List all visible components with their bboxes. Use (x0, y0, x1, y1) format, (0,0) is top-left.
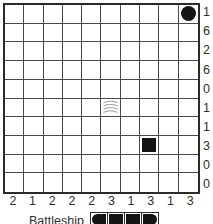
grid-cell-r8c9[interactable] (159, 136, 178, 155)
grid-cell-r5c1[interactable] (5, 80, 24, 99)
grid-cell-r2c10[interactable] (179, 24, 198, 43)
grid-cell-r2c5[interactable] (82, 24, 101, 43)
grid-cell-r4c9[interactable] (159, 61, 178, 80)
grid-cell-r2c9[interactable] (159, 24, 178, 43)
grid-cell-r4c7[interactable] (121, 61, 140, 80)
grid-cell-r3c2[interactable] (24, 42, 43, 61)
grid-cell-r4c2[interactable] (24, 61, 43, 80)
grid-cell-r3c5[interactable] (82, 42, 101, 61)
grid-cell-r6c9[interactable] (159, 99, 178, 118)
grid-cell-r1c8[interactable] (140, 5, 159, 24)
grid-cell-r7c5[interactable] (82, 117, 101, 136)
grid-cell-r8c10[interactable] (179, 136, 198, 155)
grid-cell-r1c9[interactable] (159, 5, 178, 24)
grid-cell-r4c1[interactable] (5, 61, 24, 80)
grid-cell-r9c7[interactable] (121, 155, 140, 174)
grid-cell-r9c10[interactable] (179, 155, 198, 174)
grid-cell-r9c3[interactable] (44, 155, 63, 174)
grid-cell-r6c2[interactable] (24, 99, 43, 118)
grid-cell-r7c4[interactable] (63, 117, 82, 136)
grid-cell-r1c4[interactable] (63, 5, 82, 24)
grid-cell-r2c2[interactable] (24, 24, 43, 43)
grid-cell-r10c8[interactable] (140, 173, 159, 192)
grid-cell-r10c3[interactable] (44, 173, 63, 192)
grid-cell-r9c1[interactable] (5, 155, 24, 174)
grid-cell-r8c4[interactable] (63, 136, 82, 155)
grid-cell-r10c1[interactable] (5, 173, 24, 192)
grid-cell-r7c9[interactable] (159, 117, 178, 136)
grid-cell-r10c7[interactable] (121, 173, 140, 192)
grid-cell-r5c8[interactable] (140, 80, 159, 99)
grid-cell-r1c5[interactable] (82, 5, 101, 24)
grid-cell-r8c1[interactable] (5, 136, 24, 155)
grid-cell-r4c10[interactable] (179, 61, 198, 80)
grid-cell-r3c1[interactable] (5, 42, 24, 61)
grid-cell-r2c6[interactable] (101, 24, 120, 43)
grid-cell-r5c7[interactable] (121, 80, 140, 99)
grid-cell-r6c8[interactable] (140, 99, 159, 118)
grid-cell-r9c4[interactable] (63, 155, 82, 174)
grid-cell-r10c9[interactable] (159, 173, 178, 192)
grid-cell-r1c2[interactable] (24, 5, 43, 24)
grid-cell-r9c6[interactable] (101, 155, 120, 174)
grid-cell-r1c6[interactable] (101, 5, 120, 24)
grid-cell-r8c5[interactable] (82, 136, 101, 155)
grid-cell-r4c6[interactable] (101, 61, 120, 80)
grid-cell-r6c10[interactable] (179, 99, 198, 118)
grid-cell-r6c6[interactable] (101, 99, 120, 118)
grid-cell-r9c8[interactable] (140, 155, 159, 174)
grid-cell-r6c7[interactable] (121, 99, 140, 118)
grid-cell-r5c6[interactable] (101, 80, 120, 99)
grid-cell-r2c1[interactable] (5, 24, 24, 43)
grid-cell-r4c5[interactable] (82, 61, 101, 80)
grid-cell-r7c6[interactable] (101, 117, 120, 136)
grid-cell-r6c3[interactable] (44, 99, 63, 118)
grid-cell-r4c4[interactable] (63, 61, 82, 80)
grid-cell-r10c5[interactable] (82, 173, 101, 192)
grid-cell-r10c6[interactable] (101, 173, 120, 192)
grid-cell-r8c8[interactable] (140, 136, 159, 155)
grid-cell-r2c3[interactable] (44, 24, 63, 43)
grid-cell-r3c9[interactable] (159, 42, 178, 61)
grid-cell-r10c10[interactable] (179, 173, 198, 192)
grid-cell-r1c1[interactable] (5, 5, 24, 24)
grid-cell-r2c7[interactable] (121, 24, 140, 43)
grid-cell-r7c8[interactable] (140, 117, 159, 136)
grid-cell-r7c10[interactable] (179, 117, 198, 136)
grid-cell-r8c2[interactable] (24, 136, 43, 155)
grid-cell-r8c7[interactable] (121, 136, 140, 155)
grid-cell-r9c2[interactable] (24, 155, 43, 174)
grid-cell-r5c3[interactable] (44, 80, 63, 99)
grid-cell-r3c4[interactable] (63, 42, 82, 61)
grid-cell-r5c5[interactable] (82, 80, 101, 99)
grid-cell-r2c4[interactable] (63, 24, 82, 43)
grid-cell-r6c5[interactable] (82, 99, 101, 118)
grid-cell-r5c10[interactable] (179, 80, 198, 99)
grid-cell-r10c2[interactable] (24, 173, 43, 192)
grid-cell-r7c3[interactable] (44, 117, 63, 136)
grid-cell-r3c3[interactable] (44, 42, 63, 61)
grid-cell-r8c6[interactable] (101, 136, 120, 155)
grid-cell-r10c4[interactable] (63, 173, 82, 192)
grid-cell-r5c2[interactable] (24, 80, 43, 99)
grid-cell-r7c7[interactable] (121, 117, 140, 136)
grid-cell-r3c6[interactable] (101, 42, 120, 61)
grid-cell-r7c2[interactable] (24, 117, 43, 136)
grid-cell-r4c3[interactable] (44, 61, 63, 80)
grid-cell-r1c10[interactable] (179, 5, 198, 24)
grid-cell-r6c4[interactable] (63, 99, 82, 118)
grid-cell-r5c9[interactable] (159, 80, 178, 99)
grid-cell-r9c9[interactable] (159, 155, 178, 174)
grid-cell-r4c8[interactable] (140, 61, 159, 80)
grid-cell-r9c5[interactable] (82, 155, 101, 174)
grid-cell-r3c7[interactable] (121, 42, 140, 61)
grid-cell-r6c1[interactable] (5, 99, 24, 118)
grid-cell-r8c3[interactable] (44, 136, 63, 155)
grid-cell-r1c7[interactable] (121, 5, 140, 24)
grid-cell-r5c4[interactable] (63, 80, 82, 99)
grid-cell-r7c1[interactable] (5, 117, 24, 136)
grid-cell-r1c3[interactable] (44, 5, 63, 24)
grid-cell-r3c8[interactable] (140, 42, 159, 61)
grid-cell-r3c10[interactable] (179, 42, 198, 61)
grid-cell-r2c8[interactable] (140, 24, 159, 43)
